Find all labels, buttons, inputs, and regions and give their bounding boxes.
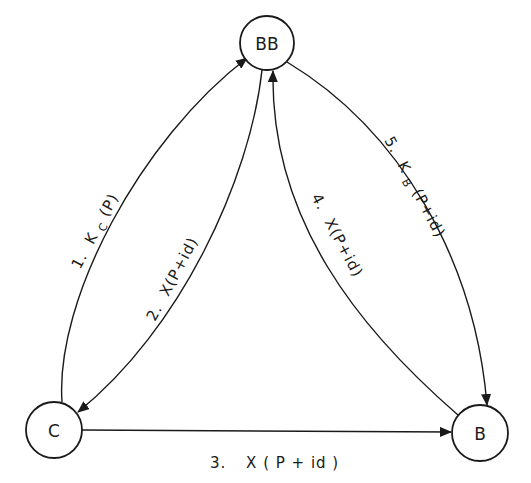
edge-1-subscript: C bbox=[96, 220, 112, 234]
edge-4-step: 4. bbox=[307, 190, 331, 213]
edge-4-b-to-bb bbox=[273, 71, 458, 415]
edge-5-bb-to-b bbox=[287, 62, 487, 405]
node-bb: BB bbox=[240, 16, 294, 70]
edge-1-step: 1. bbox=[68, 249, 92, 272]
svg-text:4. X(P+id): 4. X(P+id) bbox=[307, 190, 366, 280]
edge-2-bb-to-c bbox=[78, 70, 262, 412]
edge-5-subscript: B bbox=[399, 177, 414, 191]
svg-text:2. X(P+id): 2. X(P+id) bbox=[143, 234, 202, 324]
edge-4-label: 4. X(P+id) bbox=[307, 190, 366, 280]
edge-5-arg: (P+id) bbox=[408, 186, 449, 241]
edge-3-step: 3. bbox=[210, 454, 226, 472]
edge-2-label: 2. X(P+id) bbox=[143, 234, 202, 324]
edge-3-label: 3. X ( P + id ) bbox=[210, 454, 339, 472]
edge-1-key: K bbox=[81, 229, 102, 247]
svg-text:5. K B (P+id: 5. K B (P+id) bbox=[377, 133, 449, 242]
node-c-label: C bbox=[48, 421, 60, 441]
node-bb-label: BB bbox=[255, 34, 278, 54]
edge-3-text: X ( P + id ) bbox=[246, 454, 339, 472]
node-c: C bbox=[26, 402, 82, 458]
edge-5-label: 5. K B (P+id) bbox=[377, 133, 449, 242]
edge-4-text: X(P+id) bbox=[321, 215, 367, 280]
node-b: B bbox=[452, 405, 508, 461]
edge-5-step: 5. bbox=[380, 133, 404, 156]
svg-text:1. K C (P): 1. K C (P) bbox=[68, 190, 126, 274]
node-b-label: B bbox=[474, 424, 486, 444]
edge-1-label: 1. K C (P) bbox=[68, 190, 126, 274]
protocol-diagram: BB C B 1. K C (P) 2. X(P+id) 3. X ( P + … bbox=[0, 0, 531, 483]
edge-1-arg: (P) bbox=[95, 190, 122, 219]
edge-3-c-to-b bbox=[82, 430, 451, 432]
